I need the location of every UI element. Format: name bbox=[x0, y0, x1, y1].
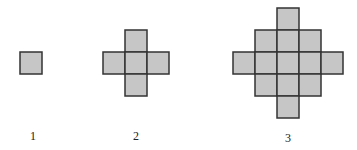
figure-1 bbox=[20, 52, 42, 74]
square-cell bbox=[299, 74, 321, 96]
square-cell bbox=[255, 74, 277, 96]
square-cell bbox=[299, 52, 321, 74]
square-cell bbox=[255, 30, 277, 52]
figure-2 bbox=[103, 30, 169, 96]
square-cell bbox=[20, 52, 42, 74]
square-cell bbox=[277, 96, 299, 118]
square-cell bbox=[125, 30, 147, 52]
square-cell bbox=[125, 52, 147, 74]
figure-label-3: 3 bbox=[278, 131, 298, 146]
pattern-diagram bbox=[0, 0, 357, 150]
square-cell bbox=[277, 8, 299, 30]
square-cell bbox=[255, 52, 277, 74]
square-cell bbox=[103, 52, 125, 74]
square-cell bbox=[125, 74, 147, 96]
figure-label-2: 2 bbox=[126, 129, 146, 144]
square-cell bbox=[299, 30, 321, 52]
square-cell bbox=[233, 52, 255, 74]
square-cell bbox=[321, 52, 343, 74]
square-cell bbox=[277, 30, 299, 52]
square-cell bbox=[277, 52, 299, 74]
square-cell bbox=[277, 74, 299, 96]
figure-3 bbox=[233, 8, 343, 118]
figure-label-1: 1 bbox=[23, 129, 43, 144]
square-cell bbox=[147, 52, 169, 74]
